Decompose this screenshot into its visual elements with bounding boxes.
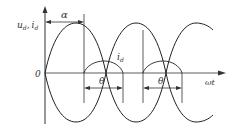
- voltage-curve-1: [45, 23, 213, 122]
- current-pulse-2: [143, 61, 182, 73]
- alpha-arrow-left-icon: [45, 20, 51, 24]
- origin-label: 0: [35, 69, 41, 79]
- x-axis-label: ωt: [205, 78, 216, 87]
- alpha-label: α: [61, 9, 68, 20]
- theta2-label: θ: [158, 76, 164, 86]
- y-axis-label: ud,id: [17, 20, 38, 31]
- voltage-curve-2: [45, 23, 213, 122]
- theta1-arrow-right-icon: [117, 86, 123, 90]
- x-axis-arrow-icon: [218, 71, 226, 76]
- theta2-arrow-right-icon: [176, 86, 182, 90]
- y-axis-arrow-icon: [43, 6, 48, 13]
- waveform-diagram: ud,id 0 ωt α id θ θ: [0, 0, 235, 129]
- theta1-label: θ: [99, 76, 105, 86]
- theta2-arrow-left-icon: [143, 86, 149, 90]
- theta1-arrow-left-icon: [84, 86, 90, 90]
- current-label: id: [117, 52, 124, 63]
